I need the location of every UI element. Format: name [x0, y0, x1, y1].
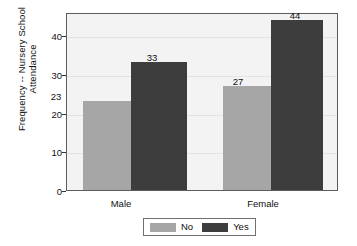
legend-entry-yes[interactable]: Yes: [202, 222, 249, 232]
y-axis-title-line-2: Attendance: [28, 44, 39, 93]
y-tick-label-40: 40: [36, 32, 62, 42]
x-tick-label-male: Male: [96, 199, 146, 209]
bar-label-male-no: 23: [25, 92, 87, 102]
bar-male-no[interactable]: [83, 101, 131, 190]
legend-label-no: No: [181, 222, 193, 232]
bar-label-female-no: 27: [215, 77, 261, 87]
bar-male-yes[interactable]: [131, 62, 187, 190]
y-tick-label-30: 30: [36, 71, 62, 81]
y-tick-label-10: 10: [36, 148, 62, 158]
bar-label-male-yes: 33: [131, 53, 173, 63]
y-tick-mark-0: [62, 191, 66, 192]
legend-label-yes: Yes: [233, 222, 249, 232]
legend-entry-no[interactable]: No: [150, 222, 193, 232]
bar-chart-figure: Frequency -- Nursery School Attendance 0…: [0, 0, 357, 246]
bar-female-yes[interactable]: [271, 20, 323, 190]
plot-panel: [66, 13, 338, 191]
x-tick-label-female: Female: [235, 199, 291, 209]
y-tick-label-20: 20: [36, 110, 62, 120]
bar-female-no[interactable]: [223, 86, 271, 191]
y-tick-label-0: 0: [36, 187, 62, 197]
legend: No Yes: [143, 218, 256, 236]
bar-label-female-yes: 44: [273, 11, 317, 21]
legend-swatch-yes-icon: [202, 223, 228, 232]
legend-swatch-no-icon: [150, 223, 176, 232]
